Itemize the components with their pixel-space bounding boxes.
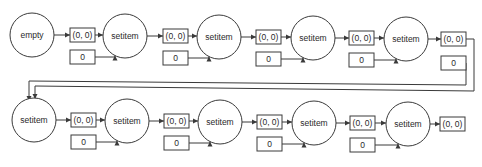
edge-arrow (375, 144, 398, 145)
value-box: 0 (71, 135, 96, 149)
node-label: empty (20, 30, 44, 40)
node-label: setitem (113, 116, 140, 126)
node-label: setitem (300, 118, 327, 128)
node-label: setitem (20, 115, 47, 125)
edge-arrow (189, 142, 210, 143)
node-setitem: setitem (292, 101, 336, 145)
edge-arrow (95, 56, 115, 57)
node-label: setitem (299, 33, 326, 43)
key-box: (0, 0) (441, 32, 466, 46)
value-box: 0 (163, 51, 188, 65)
key-box: (0, 0) (350, 116, 375, 130)
key-box: (0, 0) (164, 114, 189, 128)
edge-arrow (282, 143, 304, 144)
key-label: (0, 0) (74, 115, 94, 125)
key-label: (0, 0) (444, 34, 464, 44)
value-box: 0 (441, 56, 466, 70)
node-setitem: setitem (384, 17, 428, 61)
key-label: (0, 0) (259, 32, 279, 42)
key-box: (0, 0) (256, 30, 281, 44)
value-label: 0 (173, 53, 178, 63)
node-setitem: setitem (105, 99, 149, 143)
node-setitem: setitem (103, 14, 147, 58)
value-box: 0 (70, 50, 95, 64)
key-label: (0, 0) (166, 31, 186, 41)
node-label: setitem (205, 32, 232, 42)
key-label: (0, 0) (73, 30, 93, 40)
value-label: 0 (80, 52, 85, 62)
value-box: 0 (349, 53, 374, 67)
value-label: 0 (360, 140, 365, 150)
value-label: 0 (267, 139, 272, 149)
value-label: 0 (174, 138, 179, 148)
key-label: (0, 0) (443, 119, 463, 129)
key-box: (0, 0) (349, 31, 374, 45)
edge-arrow (96, 141, 117, 142)
value-box: 0 (350, 138, 375, 152)
value-label: 0 (81, 137, 86, 147)
setitem-chain-diagram: emptysetitemsetitemsetitemsetitem(0, 0)(… (0, 0, 482, 167)
key-label: (0, 0) (167, 116, 187, 126)
edge-line (29, 63, 466, 85)
value-label: 0 (266, 54, 271, 64)
node-empty: empty (10, 13, 54, 57)
node-label: setitem (206, 117, 233, 127)
key-label: (0, 0) (260, 117, 280, 127)
key-box: (0, 0) (163, 29, 188, 43)
value-label: 0 (359, 55, 364, 65)
node-label: setitem (111, 31, 138, 41)
node-setitem: setitem (198, 100, 242, 144)
edge-arrow (188, 57, 209, 58)
value-box: 0 (164, 136, 189, 150)
node-label: setitem (392, 34, 419, 44)
key-box: (0, 0) (70, 28, 95, 42)
value-label: 0 (451, 58, 456, 68)
key-box: (0, 0) (257, 115, 282, 129)
node-setitem: setitem (386, 102, 430, 146)
edge-arrow (374, 59, 396, 60)
value-box: 0 (257, 137, 282, 151)
key-label: (0, 0) (353, 118, 373, 128)
key-label: (0, 0) (352, 33, 372, 43)
node-setitem: setitem (12, 98, 56, 142)
edge-arrow (281, 58, 303, 59)
value-box: 0 (256, 52, 281, 66)
node-setitem: setitem (291, 16, 335, 60)
key-box: (0, 0) (71, 113, 96, 127)
node-setitem: setitem (197, 15, 241, 59)
node-label: setitem (394, 119, 421, 129)
key-box: (0, 0) (440, 117, 465, 131)
